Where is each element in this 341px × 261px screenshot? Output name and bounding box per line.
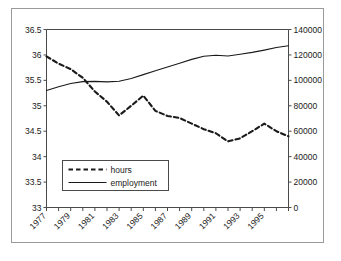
employment-axis-tick-label: 20000 bbox=[294, 177, 318, 187]
employment-axis: 020000400006000080000100000120000140000 bbox=[289, 25, 323, 213]
series-line-hours bbox=[47, 56, 289, 141]
hours-axis-tick-label: 35 bbox=[32, 101, 42, 111]
year-tick-label: 1977 bbox=[27, 211, 48, 232]
hours-axis-tick-label: 34.5 bbox=[25, 126, 42, 136]
chart-legend: hoursemployment bbox=[63, 161, 169, 191]
year-tick-label: 1991 bbox=[197, 211, 218, 232]
hours-axis-tick-label: 36.5 bbox=[25, 25, 42, 35]
year-tick-label: 1989 bbox=[173, 211, 194, 232]
hours-axis-tick-label: 33.5 bbox=[25, 177, 42, 187]
year-tick-label: 1983 bbox=[100, 211, 121, 232]
employment-axis-tick-label: 0 bbox=[294, 203, 299, 213]
dual-axis-line-chart: 3333.53434.53535.53636.5 020000400006000… bbox=[0, 0, 341, 261]
employment-axis-tick-label: 80000 bbox=[294, 101, 318, 111]
series-lines bbox=[47, 46, 289, 142]
hours-axis-tick-label: 34 bbox=[32, 152, 42, 162]
employment-axis-tick-label: 140000 bbox=[294, 25, 323, 35]
year-axis: 1977197919811983198519871989199119931995 bbox=[27, 208, 288, 232]
employment-axis-tick-label: 100000 bbox=[294, 75, 323, 85]
legend-label-employment: employment bbox=[111, 178, 158, 188]
year-tick-label: 1979 bbox=[52, 211, 73, 232]
series-line-employment bbox=[47, 46, 289, 91]
hours-axis-tick-label: 35.5 bbox=[25, 75, 42, 85]
year-tick-label: 1993 bbox=[221, 211, 242, 232]
hours-axis: 3333.53434.53535.53636.5 bbox=[25, 25, 47, 213]
year-tick-label: 1985 bbox=[124, 211, 145, 232]
employment-axis-tick-label: 40000 bbox=[294, 152, 318, 162]
year-tick-label: 1981 bbox=[76, 211, 97, 232]
employment-axis-tick-label: 60000 bbox=[294, 126, 318, 136]
employment-axis-tick-label: 120000 bbox=[294, 50, 323, 60]
year-tick-label: 1987 bbox=[148, 211, 169, 232]
year-tick-label: 1995 bbox=[245, 211, 266, 232]
hours-axis-tick-label: 36 bbox=[32, 50, 42, 60]
chart-screenshot: 3333.53434.53535.53636.5 020000400006000… bbox=[0, 0, 341, 261]
legend-label-hours: hours bbox=[111, 165, 132, 175]
